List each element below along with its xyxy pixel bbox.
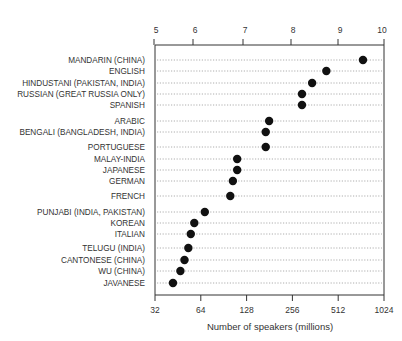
- data-row: FRENCH: [111, 192, 382, 201]
- bottom-tick-label: 1024: [375, 305, 394, 315]
- category-label: JAPANESE: [103, 166, 146, 175]
- category-label: GERMAN: [109, 177, 145, 186]
- data-point: [262, 128, 270, 136]
- category-label: MANDARIN (CHINA): [68, 56, 145, 65]
- data-point: [190, 219, 198, 227]
- top-tick-label: 10: [377, 25, 387, 35]
- dot-plot-chart: 5678910 32641282565121024 MANDARIN (CHIN…: [0, 0, 402, 341]
- category-label: WU (CHINA): [98, 267, 145, 276]
- data-row: KOREAN: [110, 219, 382, 228]
- category-label: PUNJABI (INDIA, PAKISTAN): [37, 208, 145, 217]
- data-point: [169, 279, 177, 287]
- category-label: ARABIC: [115, 117, 146, 126]
- data-row: JAPANESE: [103, 166, 382, 175]
- data-row: HINDUSTANI (PAKISTAN, INDIA): [22, 79, 382, 88]
- top-tick-label: 9: [338, 25, 343, 35]
- category-label: SPANISH: [110, 101, 145, 110]
- bottom-tick-label: 64: [196, 305, 206, 315]
- category-label: BENGALI (BANGLADESH, INDIA): [19, 128, 145, 137]
- category-label: RUSSIAN (GREAT RUSSIA ONLY): [17, 90, 145, 99]
- data-row: BENGALI (BANGLADESH, INDIA): [19, 128, 382, 137]
- top-tick-label: 7: [243, 25, 248, 35]
- category-label: TELUGU (INDIA): [82, 244, 145, 253]
- data-rows: MANDARIN (CHINA)ENGLISHHINDUSTANI (PAKIS…: [17, 56, 382, 288]
- data-row: WU (CHINA): [98, 267, 382, 276]
- data-point: [229, 177, 237, 185]
- category-label: PORTUGUESE: [88, 143, 146, 152]
- data-point: [226, 192, 234, 200]
- category-label: HINDUSTANI (PAKISTAN, INDIA): [22, 79, 145, 88]
- category-label: FRENCH: [111, 192, 145, 201]
- data-row: TELUGU (INDIA): [82, 244, 382, 253]
- bottom-axis: 32641282565121024: [150, 295, 393, 315]
- bottom-tick-label: 512: [331, 305, 345, 315]
- data-row: SPANISH: [110, 101, 382, 110]
- x-axis-label: Number of speakers (millions): [207, 321, 333, 332]
- data-point: [308, 79, 316, 87]
- bottom-tick-label: 32: [150, 305, 160, 315]
- data-point: [233, 166, 241, 174]
- top-tick-label: 6: [193, 25, 198, 35]
- data-row: PORTUGUESE: [88, 143, 382, 152]
- data-row: PUNJABI (INDIA, PAKISTAN): [37, 208, 382, 217]
- data-row: MANDARIN (CHINA): [68, 56, 382, 65]
- data-point: [201, 208, 209, 216]
- data-point: [187, 230, 195, 238]
- data-row: RUSSIAN (GREAT RUSSIA ONLY): [17, 90, 382, 99]
- category-label: JAVANESE: [103, 279, 145, 288]
- data-row: MALAY-INDIA: [94, 155, 382, 164]
- top-tick-label: 8: [291, 25, 296, 35]
- data-point: [176, 267, 184, 275]
- data-point: [322, 67, 330, 75]
- data-point: [184, 244, 192, 252]
- category-label: MALAY-INDIA: [94, 155, 145, 164]
- top-tick-label: 5: [154, 25, 159, 35]
- data-point: [265, 117, 273, 125]
- data-point: [298, 90, 306, 98]
- data-point: [233, 155, 241, 163]
- bottom-tick-label: 256: [285, 305, 299, 315]
- data-point: [180, 256, 188, 264]
- top-axis: 5678910: [154, 25, 387, 45]
- data-row: GERMAN: [109, 177, 382, 186]
- category-label: KOREAN: [110, 219, 145, 228]
- data-point: [262, 143, 270, 151]
- category-label: ENGLISH: [109, 67, 145, 76]
- data-row: JAVANESE: [103, 279, 382, 288]
- data-row: ENGLISH: [109, 67, 382, 76]
- data-point: [359, 56, 367, 64]
- category-label: CANTONESE (CHINA): [61, 256, 145, 265]
- data-point: [298, 101, 306, 109]
- data-row: CANTONESE (CHINA): [61, 256, 382, 265]
- bottom-tick-label: 128: [240, 305, 254, 315]
- category-label: ITALIAN: [115, 230, 145, 239]
